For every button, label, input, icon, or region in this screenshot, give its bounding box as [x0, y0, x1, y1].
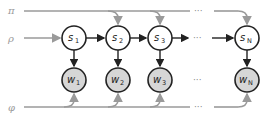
node-s2: s 2 [106, 26, 130, 50]
svg-text:s: s [240, 32, 245, 43]
node-w2: w 2 [106, 68, 130, 92]
w-ellipsis: ··· [193, 75, 202, 85]
svg-text:2: 2 [120, 79, 124, 87]
graphical-model-diagram: π ρ φ ··· ··· ··· ··· s [0, 0, 270, 118]
node-sN: s N [235, 26, 259, 50]
svg-text:3: 3 [162, 79, 166, 87]
svg-text:2: 2 [119, 37, 123, 45]
svg-text:N: N [247, 37, 252, 45]
node-w1: w 1 [62, 68, 86, 92]
svg-text:1: 1 [75, 37, 79, 45]
emission-edges [74, 50, 247, 66]
svg-text:N: N [248, 79, 253, 87]
svg-text:w: w [153, 74, 162, 85]
pi-ellipsis: ··· [194, 6, 203, 16]
node-s1: s 1 [62, 26, 86, 50]
param-rho-label: ρ [7, 33, 14, 44]
chain-ellipsis: ··· [193, 33, 202, 43]
param-pi-label: π [7, 5, 15, 16]
svg-text:3: 3 [161, 37, 165, 45]
svg-text:w: w [111, 74, 120, 85]
pi-edges: ··· [24, 6, 247, 24]
svg-text:1: 1 [76, 79, 80, 87]
svg-text:s: s [112, 32, 117, 43]
svg-text:s: s [154, 32, 159, 43]
svg-text:s: s [68, 32, 73, 43]
phi-ellipsis: ··· [194, 102, 203, 112]
svg-text:w: w [239, 74, 248, 85]
param-phi-label: φ [8, 102, 15, 113]
svg-text:w: w [67, 74, 76, 85]
node-wN: w N [235, 68, 259, 92]
phi-edges: ··· [24, 94, 247, 112]
node-w3: w 3 [148, 68, 172, 92]
node-s3: s 3 [148, 26, 172, 50]
